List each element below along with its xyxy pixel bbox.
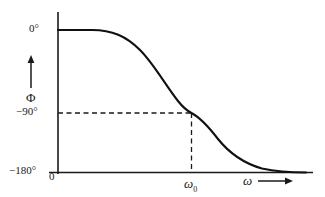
omega-axis-arrow <box>258 178 293 185</box>
x-axis-label-omega: ω <box>243 174 252 187</box>
y-tick-label-0-degrees: 0° <box>29 23 39 34</box>
x-tick-label-omega-zero: ω0 <box>184 175 197 194</box>
y-tick-label-minus-90-degrees: −90° <box>16 106 38 117</box>
phase-curve <box>58 30 306 173</box>
phase-response-chart: 0° −90° −180° 0 ω0 ω Φ <box>0 0 325 197</box>
omega-zero-subscript: 0 <box>193 185 197 194</box>
origin-label: 0 <box>49 171 55 182</box>
y-axis-label-phi: Φ <box>26 91 36 104</box>
chart-canvas <box>0 0 325 197</box>
phi-axis-arrow <box>28 55 35 88</box>
y-tick-label-minus-180-degrees: −180° <box>9 165 36 176</box>
omega-zero-base-glyph: ω <box>184 176 193 191</box>
